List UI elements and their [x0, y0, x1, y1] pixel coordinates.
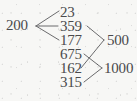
edge-200-to-23: [36, 11, 59, 26]
number-grouping-diagram: 200 23 359 177 675 162 315 500 1000: [0, 0, 137, 101]
edge-200-to-177: [36, 26, 59, 40]
node-item-315: 315: [60, 75, 82, 90]
edge-315-to-1000: [84, 68, 102, 82]
edge-162-to-500: [81, 40, 104, 68]
node-source-total: 200: [6, 18, 28, 33]
edge-359-to-500: [87, 26, 104, 40]
node-output-500: 500: [107, 33, 129, 48]
node-output-1000: 1000: [104, 61, 133, 76]
edge-675-to-1000: [84, 54, 102, 68]
